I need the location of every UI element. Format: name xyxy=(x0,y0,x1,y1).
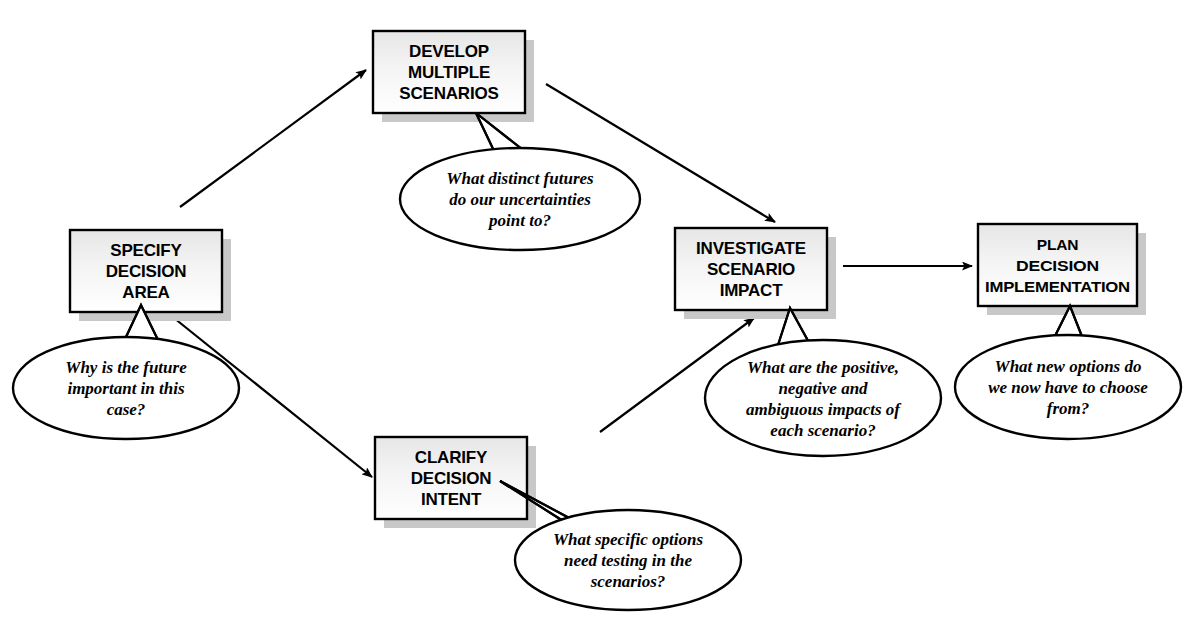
process-box-clarify-decision-intent[interactable]: CLARIFYDECISIONINTENT xyxy=(375,437,536,528)
callout-develop-multiple-scenarios: What distinct futuresdo our uncertaintie… xyxy=(400,113,640,250)
callout-specify-decision-area: Why is the futureimportant in thiscase? xyxy=(13,305,239,439)
process-box-specify-decision-area[interactable]: SPECIFYDECISIONAREA xyxy=(70,230,231,321)
box-label-line: CLARIFY xyxy=(415,448,488,467)
callout-text-line: What distinct futures xyxy=(446,169,594,188)
callout-text-line: Why is the future xyxy=(65,358,187,377)
box-label-line: PLAN xyxy=(1037,236,1078,253)
box-label-line: DECISION xyxy=(106,262,187,281)
box-label-line: DECISION xyxy=(1016,257,1099,274)
box-label-line: IMPACT xyxy=(720,281,784,300)
process-box-develop-multiple-scenarios[interactable]: DEVELOPMULTIPLESCENARIOS xyxy=(373,31,534,122)
process-box-plan-decision-implementation[interactable]: PLANDECISIONIMPLEMENTATION xyxy=(978,224,1146,315)
process-boxes-layer: SPECIFYDECISIONAREADEVELOPMULTIPLESCENAR… xyxy=(70,31,1146,528)
callout-bubbles-layer: Why is the futureimportant in thiscase?W… xyxy=(13,113,1181,610)
callout-text-line: scenarios? xyxy=(590,572,666,591)
callout-text-line: point to? xyxy=(487,211,551,230)
box-label-line: IMPLEMENTATION xyxy=(985,278,1130,295)
callout-investigate-scenario-impact: What are the positive,negative andambigu… xyxy=(705,308,941,456)
box-label-line: INTENT xyxy=(421,490,482,509)
box-label-line: AREA xyxy=(122,283,169,302)
callout-text-line: What new options do xyxy=(995,357,1142,376)
box-label-line: DECISION xyxy=(411,469,492,488)
callout-text-line: ambiguous impacts of xyxy=(746,400,902,419)
box-label-line: INVESTIGATE xyxy=(696,239,806,258)
arrow-specify-to-develop xyxy=(180,70,366,207)
process-box-investigate-scenario-impact[interactable]: INVESTIGATESCENARIOIMPACT xyxy=(675,228,836,319)
callout-text-line: What are the positive, xyxy=(747,358,899,377)
callout-text-line: each scenario? xyxy=(770,421,875,440)
scenario-planning-diagram: SPECIFYDECISIONAREADEVELOPMULTIPLESCENAR… xyxy=(0,0,1197,627)
box-label-line: DEVELOP xyxy=(409,42,489,61)
callout-text-line: case? xyxy=(107,400,146,419)
callout-text-line: from? xyxy=(1047,399,1090,418)
callout-text-line: do our uncertainties xyxy=(449,190,591,209)
callout-text-line: we now have to choose xyxy=(988,378,1148,397)
callout-text-line: negative and xyxy=(778,379,868,398)
box-label-line: SCENARIOS xyxy=(399,84,498,103)
callout-text-line: What specific options xyxy=(553,530,704,549)
callout-text-line: need testing in the xyxy=(564,551,692,570)
callout-plan-decision-implementation: What new options dowe now have to choose… xyxy=(955,306,1181,439)
box-label-line: MULTIPLE xyxy=(408,63,490,82)
callout-text-line: important in this xyxy=(67,379,185,398)
diagram-canvas: SPECIFYDECISIONAREADEVELOPMULTIPLESCENAR… xyxy=(0,0,1197,627)
callout-clarify-decision-intent: What specific optionsneed testing in the… xyxy=(500,481,741,610)
box-label-line: SCENARIO xyxy=(707,260,795,279)
box-label-line: SPECIFY xyxy=(110,241,182,260)
